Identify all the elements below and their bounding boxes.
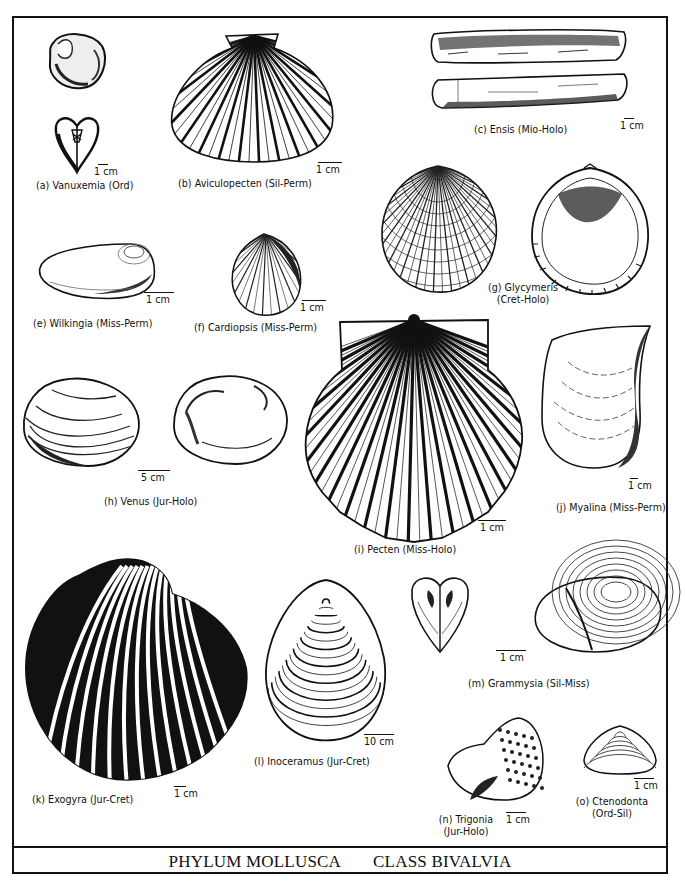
scale-label: 1 cm: [316, 164, 340, 175]
ensis-illustration-upper: [428, 28, 628, 66]
label-inoceramus: (l) Inoceramus (Jur-Cret): [254, 756, 370, 768]
venus-interior-illustration: [172, 372, 290, 468]
label-trigonia-line2: (Jur-Holo): [424, 826, 508, 838]
vanuxemia-lateral-illustration: [44, 30, 110, 92]
grammysia-lateral-illustration: [526, 572, 664, 656]
label-exogyra: (k) Exogyra (Jur-Cret): [32, 794, 133, 806]
scale-label: 10 cm: [362, 736, 394, 747]
pecten-illustration: [302, 312, 526, 544]
glycymeris-interior-illustration: [528, 164, 652, 298]
scale-bar-myalina: 1 cm: [628, 478, 658, 491]
label-pecten: (i) Pecten (Miss-Holo): [354, 544, 456, 556]
scale-bar-ensis: 1 cm: [620, 118, 650, 131]
scale-label: 1 cm: [174, 788, 198, 799]
glycymeris-exterior-illustration: [378, 162, 500, 296]
scale-bar-aviculopecten: 1 cm: [316, 162, 346, 175]
tubercle: [510, 750, 514, 754]
tubercle: [508, 778, 512, 782]
label-glycymeris-line1: (g) Glycymeris: [478, 282, 568, 294]
scale-bar-ctenodonta: 1 cm: [634, 778, 664, 791]
tubercle: [504, 758, 508, 762]
scale-label: 1 cm: [94, 166, 118, 177]
label-vanuxemia: (a) Vanuxemia (Ord): [36, 180, 133, 192]
scale-bar-vanuxemia: 1 cm: [94, 164, 120, 177]
inoceramus-illustration: [264, 578, 388, 744]
label-aviculopecten: (b) Aviculopecten (Sil-Perm): [178, 178, 312, 190]
tubercle: [514, 732, 518, 736]
scale-label: 1 cm: [634, 780, 658, 791]
scale-label: 5 cm: [138, 472, 165, 483]
tubercle: [500, 738, 504, 742]
label-glycymeris-line2: (Cret-Holo): [478, 294, 568, 306]
scale-label: 1 cm: [620, 120, 644, 131]
label-ctenodonta-line1: (o) Ctenodonta: [564, 796, 660, 808]
phylum-title: PHYLUM MOLLUSCA: [169, 852, 342, 872]
tubercle: [508, 740, 512, 744]
scale-label: 1 cm: [496, 652, 524, 663]
tubercle: [506, 768, 510, 772]
label-ensis: (c) Ensis (Mio-Holo): [474, 124, 567, 136]
label-grammysia: (m) Grammysia (Sil-Miss): [468, 678, 589, 690]
trigonia-illustration: [444, 716, 546, 802]
venus-exterior-illustration: [22, 374, 144, 470]
scale-label: 1 cm: [506, 814, 530, 825]
tubercle: [530, 774, 534, 778]
myalina-illustration: [538, 322, 654, 472]
tubercle: [506, 730, 510, 734]
tubercle: [530, 736, 534, 740]
exogyra-illustration: [22, 556, 250, 786]
tubercle: [536, 766, 540, 770]
grammysia-hinge-view-illustration: [410, 572, 470, 654]
tubercle: [526, 754, 530, 758]
wilkingia-illustration: [34, 238, 158, 302]
tubercle: [528, 764, 532, 768]
label-venus: (h) Venus (Jur-Holo): [104, 496, 197, 508]
scale-bar-wilkingia: 1 cm: [144, 292, 178, 305]
scale-bar-pecten: 1 cm: [478, 520, 510, 533]
ctenodonta-illustration: [582, 724, 658, 776]
cardiopsis-illustration: [228, 232, 304, 318]
label-cardiopsis: (f) Cardiopsis (Miss-Perm): [194, 322, 317, 334]
label-glycymeris: (g) Glycymeris (Cret-Holo): [478, 282, 568, 306]
tubercle: [532, 784, 536, 788]
class-title: CLASS BIVALVIA: [373, 852, 511, 872]
tubercle: [524, 744, 528, 748]
tubercle: [520, 762, 524, 766]
scale-label: 1 cm: [144, 294, 170, 305]
tubercle: [522, 772, 526, 776]
tubercle: [518, 752, 522, 756]
tubercle: [534, 756, 538, 760]
tubercle: [538, 776, 542, 780]
tubercle: [532, 746, 536, 750]
tubercle: [522, 734, 526, 738]
scale-bar-venus: 5 cm: [138, 470, 174, 483]
tubercle: [524, 782, 528, 786]
ensis-illustration-lower: [428, 72, 628, 112]
scale-bar-inoceramus: 10 cm: [362, 734, 398, 747]
growth-ring: [315, 615, 337, 616]
tubercle: [498, 728, 502, 732]
plate-title-bar: PHYLUM MOLLUSCACLASS BIVALVIA: [12, 846, 668, 874]
scale-bar-grammysia: 1 cm: [496, 650, 530, 663]
tubercle: [540, 786, 544, 790]
label-ctenodonta: (o) Ctenodonta (Ord-Sil): [564, 796, 660, 820]
scale-label: 1 cm: [628, 480, 652, 491]
tubercle: [514, 770, 518, 774]
tubercle: [512, 760, 516, 764]
scale-bar-trigonia: 1 cm: [506, 812, 536, 825]
scale-bar-exogyra: 1 cm: [174, 786, 202, 799]
tubercle: [516, 780, 520, 784]
label-trigonia-line1: (n) Trigonia: [424, 814, 508, 826]
tubercle: [516, 742, 520, 746]
label-wilkingia: (e) Wilkingia (Miss-Perm): [33, 318, 152, 330]
label-trigonia: (n) Trigonia (Jur-Holo): [424, 814, 508, 838]
scale-label: 1 cm: [478, 522, 504, 533]
label-myalina: (j) Myalina (Miss-Perm): [556, 502, 666, 514]
tubercle: [502, 748, 506, 752]
label-ctenodonta-line2: (Ord-Sil): [564, 808, 660, 820]
plate-title: PHYLUM MOLLUSCACLASS BIVALVIA: [12, 852, 668, 872]
aviculopecten-illustration: [168, 30, 338, 164]
